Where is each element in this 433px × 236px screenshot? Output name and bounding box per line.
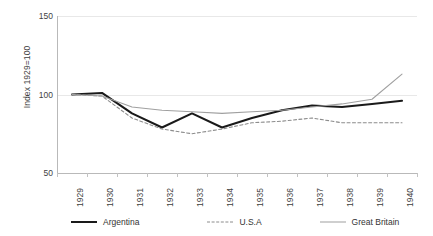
- line-chart: Index 1929=100 50100150 1929193019311932…: [0, 0, 433, 236]
- legend-swatch-great-britain: [320, 218, 346, 226]
- legend-item-u-s-a[interactable]: U.S.A: [207, 218, 261, 227]
- legend-item-great-britain[interactable]: Great Britain: [320, 218, 400, 227]
- series-container: [0, 0, 433, 236]
- legend-label-u-s-a: U.S.A: [239, 218, 261, 227]
- legend-item-argentina[interactable]: Argentina: [71, 218, 139, 227]
- chart-legend: ArgentinaU.S.AGreat Britain: [57, 214, 417, 230]
- legend-swatch-argentina: [71, 218, 97, 226]
- series-line-u-s-a: [72, 95, 402, 134]
- legend-swatch-u-s-a: [207, 218, 233, 226]
- legend-label-argentina: Argentina: [103, 218, 139, 227]
- legend-label-great-britain: Great Britain: [352, 218, 400, 227]
